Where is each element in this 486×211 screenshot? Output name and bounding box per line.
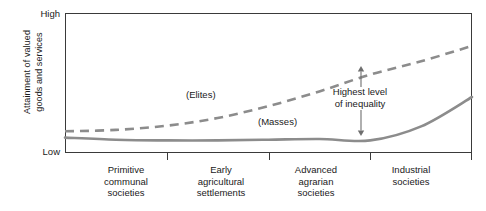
x-category-early-agricultural-settlements: Early agricultural settlements bbox=[173, 164, 269, 199]
x-category-industrial-societies: Industrial societies bbox=[363, 164, 459, 187]
plot-series-layer bbox=[65, 13, 472, 153]
x-axis-tick bbox=[167, 153, 168, 160]
x-axis-tick bbox=[269, 153, 270, 160]
y-axis-label-low: Low bbox=[20, 146, 60, 157]
x-axis-tick bbox=[370, 153, 371, 160]
x-axis-ticks bbox=[65, 153, 472, 161]
chart-container: Attainment of valued goods and services … bbox=[0, 0, 486, 211]
series-label-elites: (Elites) bbox=[186, 89, 216, 100]
y-axis-title: Attainment of valued goods and services bbox=[22, 0, 52, 145]
annotation-highest-level-of-inequality: Highest level of inequality bbox=[306, 86, 414, 109]
x-category-advanced-agrarian-societies: Advanced agrarian societies bbox=[268, 164, 364, 199]
series-label-masses: (Masses) bbox=[258, 116, 297, 127]
x-axis-category-labels: Primitive communal societies Early agric… bbox=[65, 164, 472, 209]
x-category-primitive-communal-societies: Primitive communal societies bbox=[78, 164, 174, 199]
x-axis-tick bbox=[471, 153, 472, 160]
y-axis-label-high: High bbox=[20, 8, 60, 19]
